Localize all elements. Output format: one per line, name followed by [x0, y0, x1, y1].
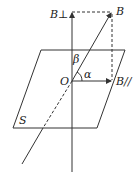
label-origin: O: [60, 75, 69, 88]
b-line-extension: [22, 128, 43, 164]
label-b: B: [115, 5, 124, 18]
label-b-perp: B⊥: [49, 8, 68, 21]
label-plane-s: S: [19, 114, 27, 127]
b-vector: [72, 13, 111, 81]
plane-s: [13, 50, 125, 128]
alpha-arc: [77, 72, 82, 81]
label-alpha: α: [84, 68, 92, 81]
vector-diagram: B⊥ B B// β α O S: [0, 0, 140, 172]
b-line-extension-hidden: [43, 81, 72, 128]
label-beta: β: [72, 53, 79, 66]
label-b-parallel: B//: [115, 75, 133, 88]
